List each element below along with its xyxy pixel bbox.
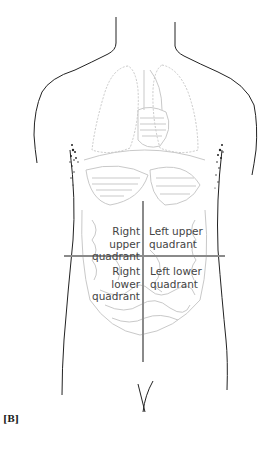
label-line: quadrant [82, 290, 140, 303]
figure-panel-tag: [B] [3, 414, 19, 424]
armpit-hair-left [69, 144, 78, 186]
label-line: quadrant [149, 238, 219, 251]
label-line: Left upper [149, 225, 219, 238]
label-left-upper-quadrant: Left upper quadrant [149, 225, 219, 250]
label-line: Right lower [82, 265, 140, 290]
label-line: Left lower [150, 265, 220, 278]
label-line: Right upper [84, 225, 140, 250]
body-outline [34, 17, 257, 412]
label-line: quadrant [84, 250, 140, 263]
label-right-lower-quadrant: Right lower quadrant [82, 265, 140, 303]
label-right-upper-quadrant: Right upper quadrant [84, 225, 140, 263]
label-line: quadrant [150, 278, 220, 291]
label-left-lower-quadrant: Left lower quadrant [150, 265, 220, 290]
